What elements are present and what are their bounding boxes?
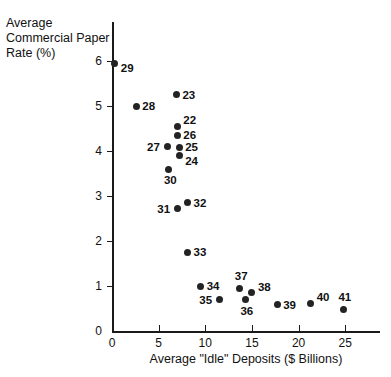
data-point (274, 301, 281, 308)
data-point-label: 37 (235, 271, 248, 283)
x-tick-label: 5 (146, 337, 172, 349)
data-point-label: 30 (164, 175, 177, 187)
data-point (236, 285, 243, 292)
x-tick-label: 20 (286, 337, 312, 349)
data-point (164, 143, 171, 150)
data-point (174, 123, 181, 130)
x-axis-title: Average "Idle" Deposits ($ Billions) (112, 352, 380, 366)
data-point (248, 289, 255, 296)
data-point-label: 22 (183, 115, 196, 127)
data-point-label: 38 (258, 282, 271, 294)
data-point (307, 300, 314, 307)
data-point (216, 296, 223, 303)
y-tick-label: 6 (80, 55, 102, 67)
y-tick-mark (107, 196, 114, 197)
data-point (176, 144, 183, 151)
data-point (111, 60, 118, 67)
x-tick-mark (252, 325, 253, 332)
scatter-plot: Average Commercial Paper Rate (%) 012345… (0, 0, 391, 377)
data-point (340, 306, 347, 313)
y-tick-mark (107, 151, 114, 152)
data-point-label: 25 (185, 142, 198, 154)
x-tick-label: 0 (99, 337, 125, 349)
data-point-label: 24 (185, 156, 198, 168)
data-point-label: 35 (199, 295, 212, 307)
data-point (133, 103, 140, 110)
y-tick-mark (107, 286, 114, 287)
x-tick-mark (159, 325, 160, 332)
data-point (173, 91, 180, 98)
data-point-label: 40 (317, 292, 330, 304)
data-point-label: 34 (207, 281, 220, 293)
data-point (242, 296, 249, 303)
y-tick-label: 3 (80, 190, 102, 202)
data-point-label: 39 (283, 300, 296, 312)
data-point (174, 205, 181, 212)
data-point-label: 23 (182, 90, 195, 102)
data-point (184, 249, 191, 256)
data-point (165, 166, 172, 173)
y-tick-label: 4 (80, 145, 102, 157)
y-tick-mark (107, 106, 114, 107)
y-tick-label: 5 (80, 100, 102, 112)
data-point-label: 31 (157, 204, 170, 216)
data-point-label: 29 (121, 63, 134, 75)
data-point-label: 36 (240, 306, 253, 318)
x-tick-label: 10 (192, 337, 218, 349)
data-point-label: 32 (194, 198, 207, 210)
y-tick-mark (107, 241, 114, 242)
x-tick-mark (299, 325, 300, 332)
y-tick-label: 1 (80, 280, 102, 292)
x-axis-line (112, 331, 380, 333)
data-point (176, 152, 183, 159)
x-tick-label: 25 (332, 337, 358, 349)
data-point-label: 27 (147, 142, 160, 154)
data-point-label: 33 (194, 247, 207, 259)
x-tick-label: 15 (239, 337, 265, 349)
x-tick-mark (205, 325, 206, 332)
y-tick-label: 2 (80, 235, 102, 247)
data-point-label: 26 (183, 130, 196, 142)
data-point (184, 199, 191, 206)
data-point (197, 283, 204, 290)
data-point-label: 41 (338, 292, 351, 304)
x-tick-mark (345, 325, 346, 332)
y-tick-label: 0 (80, 325, 102, 337)
data-point (174, 132, 181, 139)
data-point-label: 28 (142, 101, 155, 113)
